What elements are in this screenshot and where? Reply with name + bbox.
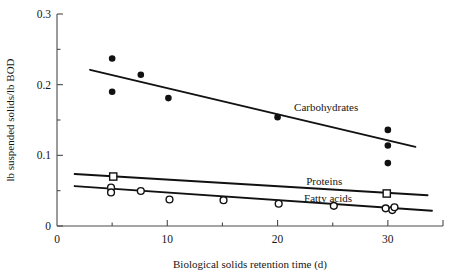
trend-line-fatty-acids [75,186,432,211]
data-point-fatty-acids [166,196,173,203]
series-label-fatty-acids: Fatty acids [304,192,352,204]
data-point-carbohydrates [165,95,172,102]
data-point-carbohydrates [109,55,116,62]
data-point-fatty-acids [382,205,389,212]
data-point-fatty-acids [275,200,282,207]
y-tick-label: 0.1 [37,149,52,161]
y-tick-label: 0.3 [37,8,52,20]
x-tick-label: 10 [162,233,174,245]
data-point-carbohydrates [385,142,392,149]
x-tick-label: 20 [272,233,284,245]
data-point-proteins [110,173,117,180]
scatter-plot: 00.10.20.30102030 CarbohydratesProteinsF… [0,0,452,277]
series-label-proteins: Proteins [306,175,342,187]
trend-line-carbohydrates [90,70,415,147]
data-point-carbohydrates [109,88,116,95]
series-label-carbohydrates: Carbohydrates [294,101,358,113]
data-point-carbohydrates [385,127,392,134]
data-point-fatty-acids [220,197,227,204]
data-point-proteins [383,190,390,197]
chart-figure: 00.10.20.30102030 CarbohydratesProteinsF… [0,0,452,277]
x-tick-label: 30 [382,233,394,245]
y-tick-label: 0.2 [37,79,52,91]
axis-tick-labels: 00.10.20.30102030 [37,8,394,245]
trend-line-proteins [75,174,428,195]
y-axis-title: lb suspended solids/lb BOD [4,58,16,181]
data-point-carbohydrates [138,71,145,78]
x-tick-label: 0 [54,233,60,245]
data-point-fatty-acids [108,189,115,196]
data-point-fatty-acids [137,188,144,195]
data-points [108,55,398,213]
data-point-fatty-acids [391,204,398,211]
y-tick-label: 0 [45,220,51,232]
data-point-carbohydrates [385,160,392,167]
data-point-carbohydrates [274,114,281,121]
trend-lines [75,70,432,211]
x-axis-title: Biological solids retention time (d) [173,258,327,271]
